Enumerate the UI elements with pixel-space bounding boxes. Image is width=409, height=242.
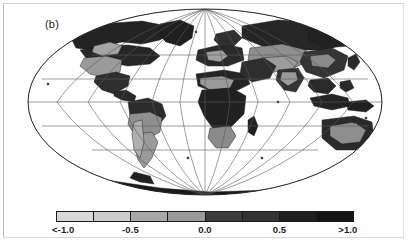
map-svg xyxy=(10,2,400,202)
island-dot xyxy=(353,121,355,123)
colorbar-segment xyxy=(280,212,317,221)
island-dot xyxy=(187,157,189,159)
world-map xyxy=(10,2,400,202)
colorbar-tick-labels: <-1.0-0.50.00.5>1.0 xyxy=(56,224,354,238)
figure-panel-b: (b) xyxy=(0,0,409,242)
region-new-zealand xyxy=(378,138,392,156)
colorbar-segment xyxy=(317,212,353,221)
colorbar-segment xyxy=(243,212,280,221)
colorbar-segment xyxy=(131,212,168,221)
island-dot xyxy=(365,117,367,119)
colorbar-gradient xyxy=(56,211,354,222)
colorbar-segment xyxy=(206,212,243,221)
island-dot xyxy=(47,83,49,85)
colorbar-tick-label: 0.5 xyxy=(273,224,287,235)
colorbar-tick-label: -0.5 xyxy=(122,224,139,235)
colorbar-tick-label: <-1.0 xyxy=(52,224,74,235)
colorbar-segment xyxy=(57,212,94,221)
colorbar-tick-label: >1.0 xyxy=(338,224,357,235)
colorbar-segment xyxy=(94,212,131,221)
colorbar-segment xyxy=(168,212,205,221)
island-dot xyxy=(261,157,263,159)
colorbar-tick-label: 0.0 xyxy=(198,224,212,235)
colorbar: <-1.0-0.50.00.5>1.0 xyxy=(56,211,354,239)
